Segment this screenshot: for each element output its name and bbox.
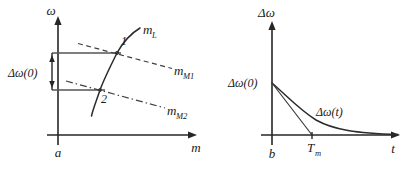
panel-a-point-1-label: 1 xyxy=(121,34,127,48)
panel-a: ω m Δω(0) 1 2 m L m M1 m M2 a xyxy=(7,3,201,160)
panel-a-label-m-load-sub: L xyxy=(151,30,157,40)
panel-a-caption: a xyxy=(55,145,62,160)
panel-a-point-2-label: 2 xyxy=(101,92,107,106)
panel-a-x-axis-arrowhead xyxy=(188,131,197,138)
panel-b-caption: b xyxy=(269,146,276,161)
panel-b: Δω t Δω(0) Δω(t) T m b xyxy=(227,5,400,161)
panel-a-y-axis-label: ω xyxy=(46,3,55,18)
panel-b-time-constant-base: T xyxy=(307,140,315,155)
panel-a-label-m-motor1-base: m xyxy=(174,63,183,78)
panel-b-x-axis-label: t xyxy=(391,141,395,156)
panel-b-initial-value-label: Δω(0) xyxy=(227,76,258,90)
figure-container: ω m Δω(0) 1 2 m L m M1 m M2 a xyxy=(0,0,411,174)
panel-a-x-axis-label: m xyxy=(191,140,200,155)
panel-a-line-motor2 xyxy=(66,81,165,108)
panel-a-curve-load xyxy=(92,28,141,116)
panel-a-x-axis xyxy=(47,131,197,138)
panel-a-label-m-motor2-base: m xyxy=(167,103,176,118)
panel-a-label-m-motor1: m M1 xyxy=(174,63,194,81)
panel-a-y-axis xyxy=(54,16,61,145)
panel-b-tangent-line xyxy=(272,83,312,135)
panel-a-delta-omega-label: Δω(0) xyxy=(7,66,38,80)
panel-a-label-m-load: m L xyxy=(143,22,157,40)
panel-b-y-axis-label: Δω xyxy=(257,5,275,20)
panel-b-x-axis xyxy=(261,131,400,138)
panel-a-label-m-motor2-sub: M2 xyxy=(175,111,188,121)
panel-b-time-constant-label: T m xyxy=(307,140,321,158)
panel-b-time-constant-sub: m xyxy=(315,148,321,158)
panel-a-label-m-motor1-sub: M1 xyxy=(182,71,194,81)
two-panel-diagram: ω m Δω(0) 1 2 m L m M1 m M2 a xyxy=(0,0,411,174)
panel-b-y-axis-arrowhead xyxy=(268,21,275,30)
panel-a-delta-omega-bracket xyxy=(49,53,55,90)
panel-a-label-m-motor2: m M2 xyxy=(167,103,188,121)
panel-a-label-m-load-base: m xyxy=(143,22,152,37)
panel-b-curve-label: Δω(t) xyxy=(315,105,343,119)
